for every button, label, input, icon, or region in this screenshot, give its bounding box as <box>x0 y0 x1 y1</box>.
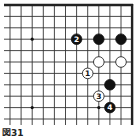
svg-text:1: 1 <box>85 69 90 78</box>
svg-text:3: 3 <box>96 92 101 101</box>
white-stone-3: 3 <box>94 91 105 102</box>
star-point <box>31 38 34 41</box>
svg-text:4: 4 <box>107 103 112 112</box>
white-stone <box>94 57 105 68</box>
black-stone <box>94 34 105 45</box>
star-point <box>97 106 100 109</box>
black-stone-4: 4 <box>105 102 116 113</box>
go-board-diagram: 2134 <box>0 0 137 128</box>
black-stone <box>116 34 127 45</box>
diagram-caption: 図31 <box>2 129 24 136</box>
white-stone <box>116 57 127 68</box>
black-stone-2: 2 <box>71 34 82 45</box>
black-stone <box>105 80 116 91</box>
white-stone-1: 1 <box>82 68 93 79</box>
svg-text:2: 2 <box>74 35 79 44</box>
star-point <box>31 106 34 109</box>
